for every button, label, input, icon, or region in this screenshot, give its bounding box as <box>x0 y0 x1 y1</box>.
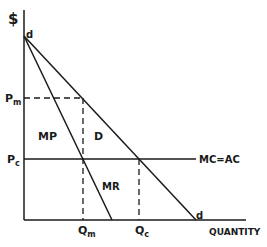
qc-label: Qc <box>135 224 149 239</box>
monopoly-profit-label: MP <box>38 130 57 143</box>
demand-origin-label: d <box>26 29 33 40</box>
economics-diagram: $ d Pm Pc MP D MR MC=AC d Qm Qc QUANTITY <box>0 0 267 247</box>
y-axis-label: $ <box>8 10 18 28</box>
cost-label: MC=AC <box>199 154 240 165</box>
mr-label: MR <box>102 181 120 192</box>
marginal-revenue-curve <box>24 36 112 220</box>
demand-label: D <box>94 130 103 143</box>
x-axis-label: QUANTITY <box>209 227 261 237</box>
demand-endpoint-label: d <box>196 210 203 221</box>
pc-label: Pc <box>7 153 20 168</box>
pm-label: Pm <box>5 92 21 107</box>
qm-label: Qm <box>78 224 96 239</box>
demand-curve <box>24 36 196 220</box>
diagram-canvas: $ d Pm Pc MP D MR MC=AC d Qm Qc QUANTITY <box>0 0 267 247</box>
